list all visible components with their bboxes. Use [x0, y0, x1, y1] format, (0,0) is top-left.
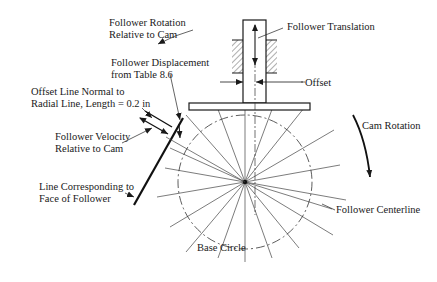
label-follower-rotation: Follower Rotation Relative to Cam [109, 17, 186, 41]
cam-follower-diagram: Follower Rotation Relative to Cam Follow… [0, 0, 437, 282]
label-offset-line: Offset Line Normal to Radial Line, Lengt… [31, 86, 150, 110]
radial-lines [157, 100, 346, 262]
label-cam-rotation: Cam Rotation [362, 120, 421, 132]
label-follower-centerline: Follower Centerline [336, 204, 420, 216]
label-follower-translation: Follower Translation [287, 21, 375, 33]
label-follower-displacement: Follower Displacement from Table 8.6 [111, 57, 209, 81]
label-base-circle: Base Circle [197, 242, 246, 254]
label-follower-velocity: Follower Velocity Relative to Cam [55, 131, 130, 155]
face-line [134, 118, 183, 205]
follower-face [189, 103, 310, 110]
label-offset: Offset [305, 77, 331, 89]
label-face-line: Line Corresponding to Face of Follower [39, 181, 134, 205]
